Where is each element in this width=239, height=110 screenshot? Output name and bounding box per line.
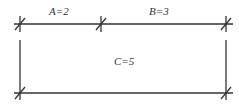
label-a: A=2 xyxy=(49,5,69,17)
label-b: B=3 xyxy=(149,5,169,17)
label-c: C=5 xyxy=(114,55,134,67)
